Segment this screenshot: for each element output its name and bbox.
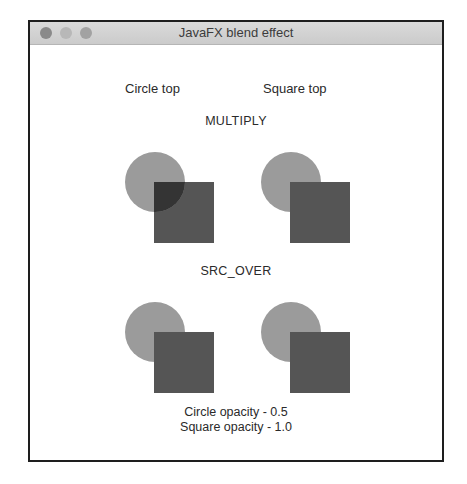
column-label-circle-top: Circle top xyxy=(125,81,180,96)
mode-label-multiply: MULTIPLY xyxy=(30,114,442,128)
src-over-circle-top-group xyxy=(125,302,217,396)
title-bar[interactable]: JavaFX blend effect xyxy=(30,22,442,45)
column-label-square-top: Square top xyxy=(263,81,327,96)
multiply-blend-shapes xyxy=(125,152,217,246)
square-shape xyxy=(290,182,350,243)
square-shape xyxy=(154,332,214,393)
mode-label-src-over: SRC_OVER xyxy=(30,264,442,278)
multiply-circle-top-group xyxy=(125,152,217,246)
circle-opacity-label: Circle opacity - 0.5 xyxy=(30,405,442,420)
window-title: JavaFX blend effect xyxy=(30,25,442,40)
square-opacity-label: Square opacity - 1.0 xyxy=(30,420,442,435)
multiply-square-top-group xyxy=(261,152,353,246)
square-shape xyxy=(290,332,350,393)
app-window: JavaFX blend effect Circle top Square to… xyxy=(28,20,444,462)
src-over-square-top-group xyxy=(261,302,353,396)
